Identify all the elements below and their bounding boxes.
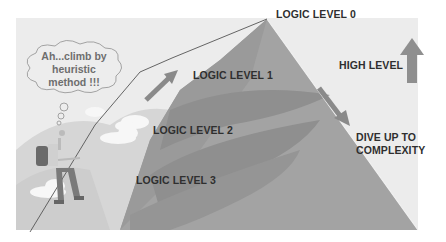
thought-line-3: method !!! bbox=[26, 76, 122, 89]
dive-label-line-2: COMPLEXITY bbox=[356, 144, 425, 156]
climb-arrow-icon bbox=[146, 70, 178, 100]
mountain-illustration bbox=[0, 0, 446, 242]
dive-label-line-1: DIVE UP TO bbox=[356, 131, 416, 143]
logic-level-2-label: LOGIC LEVEL 2 bbox=[153, 124, 233, 136]
logic-level-1-label: LOGIC LEVEL 1 bbox=[193, 69, 273, 81]
up-arrow-icon bbox=[400, 38, 424, 83]
high-level-label: HIGH LEVEL bbox=[339, 59, 403, 71]
logic-level-0-label: LOGIC LEVEL 0 bbox=[276, 8, 356, 20]
thought-line-1: Ah...climb by bbox=[26, 50, 122, 63]
logic-level-3-label: LOGIC LEVEL 3 bbox=[136, 174, 216, 186]
thought-bubble-text: Ah...climb by heuristic method !!! bbox=[26, 50, 122, 89]
thought-line-2: heuristic bbox=[26, 63, 122, 76]
